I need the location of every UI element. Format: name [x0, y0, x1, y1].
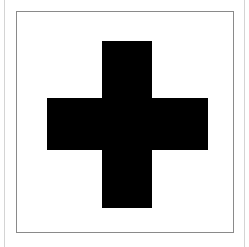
symbol-frame [16, 11, 234, 233]
outer-edge-line-left [4, 0, 5, 247]
cross-horizontal-bar [47, 98, 208, 150]
outer-edge-line-right [244, 0, 245, 247]
